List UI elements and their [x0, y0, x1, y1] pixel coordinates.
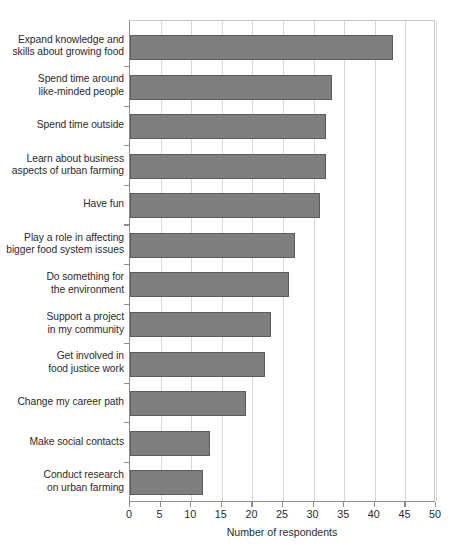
x-axis-tick-label: 10 [184, 508, 196, 521]
y-axis-category-label-line: Spend time outside [0, 119, 124, 132]
bars-layer [130, 21, 434, 501]
y-axis-category-label-line: like-minded people [0, 86, 124, 99]
y-axis-category-label-line: Have fun [0, 198, 124, 211]
bar [130, 114, 326, 139]
bar-row [130, 424, 434, 464]
bar [130, 154, 326, 179]
y-axis-category-label-line: Change my career path [0, 396, 124, 409]
y-axis-category-label: Spend time aroundlike-minded people [0, 73, 124, 98]
bar [130, 233, 295, 258]
bar [130, 352, 265, 377]
bar-row [130, 384, 434, 424]
x-axis-tick-label: 45 [398, 508, 410, 521]
x-axis-tick [190, 502, 191, 507]
caption-fragment [8, 543, 448, 550]
y-axis-category-label: Support a projectin my community [0, 311, 124, 336]
gridline [436, 21, 437, 501]
x-axis-tick-label: 30 [307, 508, 319, 521]
y-axis-category-label: Expand knowledge andskills about growing… [0, 34, 124, 59]
y-axis-category-label-line: aspects of urban farming [0, 165, 124, 178]
x-axis-tick-label: 25 [276, 508, 288, 521]
x-axis-tick-label: 40 [368, 508, 380, 521]
bar-row [130, 68, 434, 108]
bar-row [130, 28, 434, 68]
y-axis-category-label-line: Conduct research [0, 469, 124, 482]
bar-row [130, 265, 434, 305]
plot-area [129, 20, 435, 502]
x-axis-tick-labels: 05101520253035404550 [129, 508, 435, 523]
y-axis-category-labels: Expand knowledge andskills about growing… [0, 20, 124, 502]
x-axis-tick [435, 502, 436, 507]
x-axis-tick-label: 5 [157, 508, 163, 521]
y-axis-category-label: Conduct researchon urban farming [0, 469, 124, 494]
x-axis-tick-label: 20 [245, 508, 257, 521]
bar [130, 431, 210, 456]
bar-row [130, 186, 434, 226]
bar-row [130, 305, 434, 345]
bar [130, 312, 271, 337]
y-axis-category-label-line: on urban farming [0, 482, 124, 495]
y-axis-category-label-line: Spend time around [0, 73, 124, 86]
bar [130, 391, 246, 416]
x-axis-tick [160, 502, 161, 507]
x-axis-tick [404, 502, 405, 507]
y-axis-category-label: Play a role in affectingbigger food syst… [0, 232, 124, 257]
bar [130, 75, 332, 100]
bar-row [130, 463, 434, 503]
y-axis-category-label: Change my career path [0, 396, 124, 409]
y-axis-category-label-line: Learn about business [0, 153, 124, 166]
y-axis-category-label-line: Do something for [0, 271, 124, 284]
y-axis-category-label: Have fun [0, 198, 124, 211]
y-axis-category-label-line: in my community [0, 324, 124, 337]
x-axis-tick [374, 502, 375, 507]
x-axis-tick-label: 15 [215, 508, 227, 521]
y-axis-category-label-line: food justice work [0, 363, 124, 376]
y-axis-category-label-line: Expand knowledge and [0, 34, 124, 47]
x-axis-tick [251, 502, 252, 507]
x-axis-tick [343, 502, 344, 507]
x-axis-title: Number of respondents [129, 526, 435, 538]
x-axis-tick [221, 502, 222, 507]
bar-row [130, 226, 434, 266]
y-axis-category-label-line: Support a project [0, 311, 124, 324]
bar [130, 272, 289, 297]
bar [130, 193, 320, 218]
bar [130, 35, 393, 60]
x-axis-tick [282, 502, 283, 507]
y-axis-category-label: Make social contacts [0, 436, 124, 449]
y-axis-category-label-line: Get involved in [0, 350, 124, 363]
y-axis-category-label-line: skills about growing food [0, 46, 124, 59]
x-axis-tick [129, 502, 130, 507]
x-axis-tick-label: 35 [337, 508, 349, 521]
bar-row [130, 147, 434, 187]
x-axis-tick-label: 0 [126, 508, 132, 521]
bar-row [130, 107, 434, 147]
y-axis-category-label-line: bigger food system issues [0, 244, 124, 257]
y-axis-category-label: Learn about businessaspects of urban far… [0, 153, 124, 178]
y-axis-category-label: Spend time outside [0, 119, 124, 132]
bar-chart-figure: Expand knowledge andskills about growing… [0, 0, 454, 550]
y-axis-category-label: Do something forthe environment [0, 271, 124, 296]
x-axis-tick [313, 502, 314, 507]
y-axis-category-label-line: the environment [0, 284, 124, 297]
y-axis-category-label: Get involved infood justice work [0, 350, 124, 375]
x-axis-tick-label: 50 [429, 508, 441, 521]
bar-row [130, 345, 434, 385]
bar [130, 470, 203, 495]
y-axis-category-label-line: Play a role in affecting [0, 232, 124, 245]
y-axis-category-label-line: Make social contacts [0, 436, 124, 449]
